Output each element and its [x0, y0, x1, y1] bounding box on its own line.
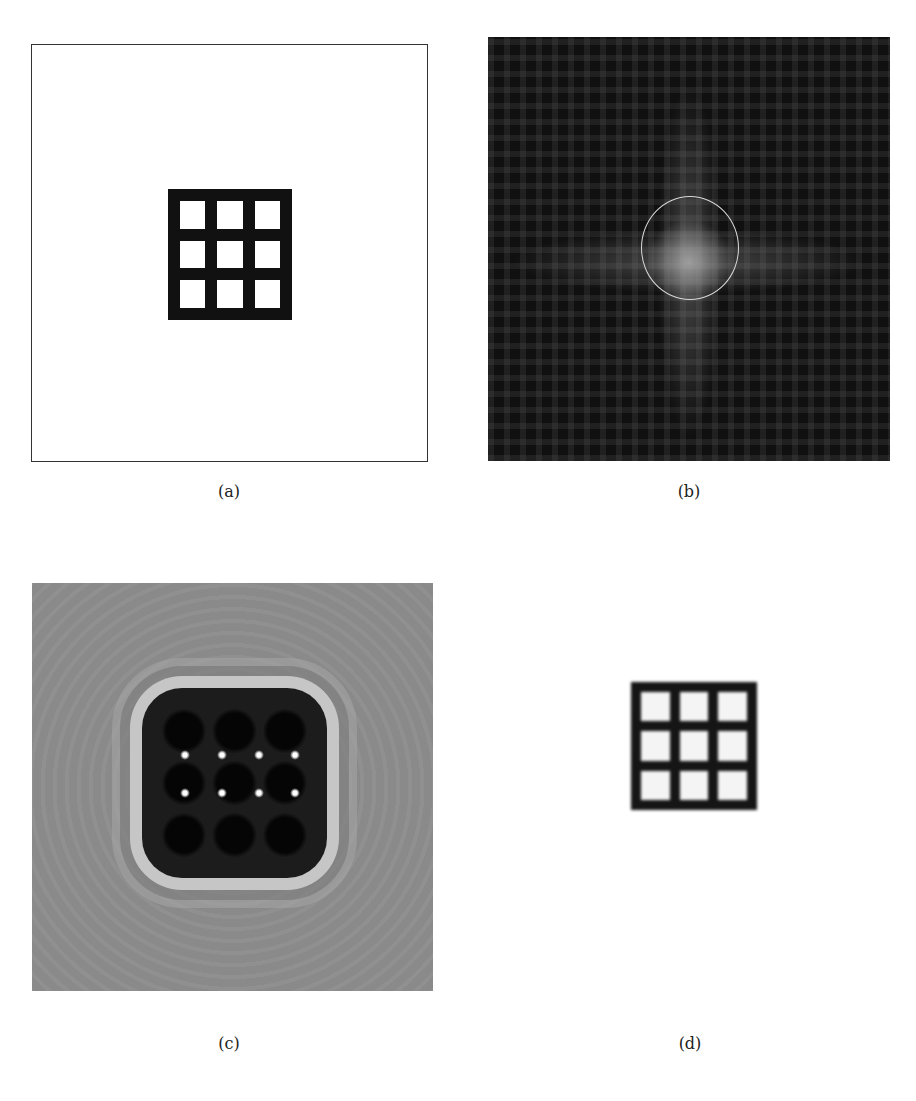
reconstructed-object [142, 688, 327, 878]
bright-node [254, 750, 264, 760]
dark-cell [162, 760, 206, 806]
grid-cell [180, 201, 205, 229]
grid-cell [217, 241, 242, 269]
caption-c: (c) [179, 1034, 279, 1053]
grid-cell [641, 692, 670, 721]
grid-cell [180, 280, 205, 308]
panel-b-fourier-spectrum [488, 37, 890, 461]
grid-cell [680, 731, 709, 760]
dark-cell [212, 812, 256, 858]
grid-cell [180, 241, 205, 269]
panel-a-original-object [31, 44, 428, 462]
grid-cell [255, 201, 280, 229]
grid-cell [641, 771, 670, 800]
grid-cell [718, 692, 747, 721]
grid-cell [718, 771, 747, 800]
caption-b: (b) [639, 482, 739, 501]
bright-node [180, 750, 190, 760]
bright-node [180, 788, 190, 798]
dark-cell [212, 760, 256, 806]
bright-node [254, 788, 264, 798]
grid-cell [255, 241, 280, 269]
dark-cell [263, 708, 307, 754]
panel-d-blurred-reconstruction [488, 583, 890, 991]
dark-cell [162, 812, 206, 858]
grid-cell [680, 692, 709, 721]
bright-node [290, 750, 300, 760]
bright-node [290, 788, 300, 798]
caption-a: (a) [179, 482, 279, 501]
grid-cell [255, 280, 280, 308]
bright-node [217, 750, 227, 760]
grid-cell [217, 280, 242, 308]
grid-cell [680, 771, 709, 800]
dark-cell [263, 760, 307, 806]
panel-c-reconstruction-ringing [32, 583, 433, 991]
blurred-grid-object [631, 682, 757, 810]
bright-node [217, 788, 227, 798]
grid-cell [718, 731, 747, 760]
grid-cell [641, 731, 670, 760]
circular-mask [641, 196, 739, 300]
grid-object [168, 189, 292, 320]
dark-cell [263, 812, 307, 858]
grid-cell [217, 201, 242, 229]
dark-cell [162, 708, 206, 754]
caption-d: (d) [640, 1034, 740, 1053]
dark-cell [212, 708, 256, 754]
dark-cells [162, 708, 307, 858]
